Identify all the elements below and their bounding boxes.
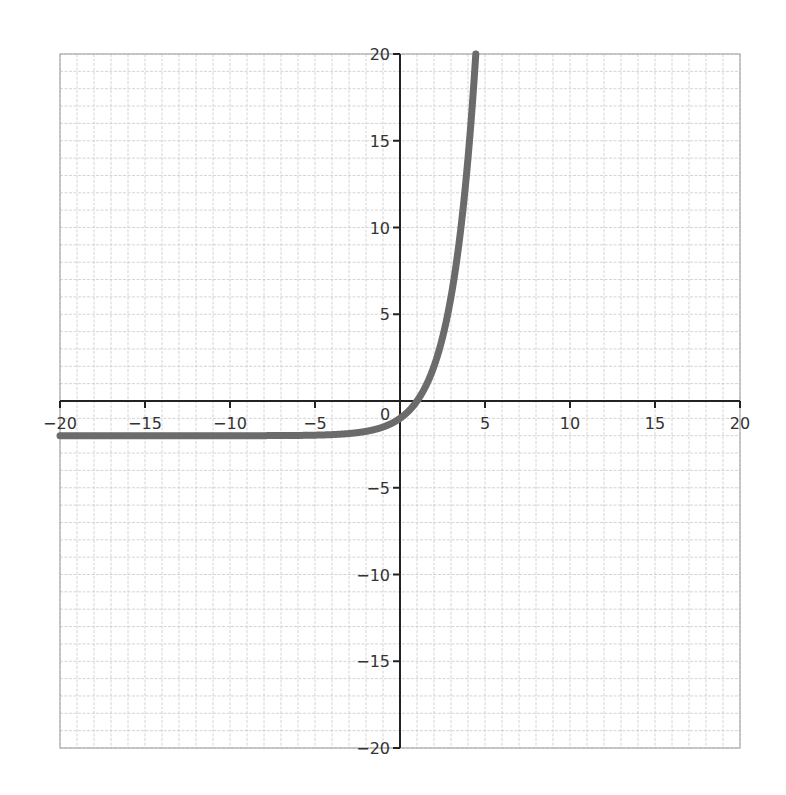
y-tick-label: 5 [380,305,390,324]
x-tick-label: −10 [213,414,247,433]
y-tick-label: −5 [366,479,390,498]
x-tick-label: 10 [560,414,580,433]
x-tick-label: −15 [128,414,162,433]
x-tick-label: −5 [303,414,327,433]
x-tick-label: 20 [730,414,750,433]
function-graph: −20−15−10−55101520 2015105−5−10−15−20 0 [0,0,786,795]
y-tick-label: −15 [356,652,390,671]
x-tick-label: −20 [43,414,77,433]
y-tick-label: 15 [370,132,390,151]
y-tick-label: 10 [370,219,390,238]
y-tick-label: −10 [356,566,390,585]
x-tick-label: 15 [645,414,665,433]
y-tick-label: −20 [356,739,390,758]
y-tick-label: 20 [370,45,390,64]
x-tick-label: 5 [480,414,490,433]
